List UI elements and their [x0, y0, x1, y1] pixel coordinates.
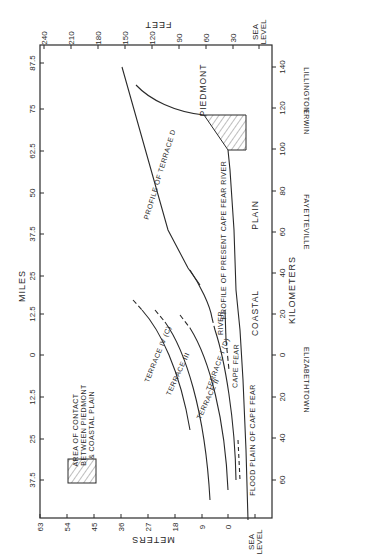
terrace-profile-diagram: 87.5 75 62.5 50 37.5 25 12.5 0 12.5 25 3…	[0, 0, 367, 560]
terrace-i-upper	[190, 270, 212, 318]
legend-line-2: BETWEEN PIEDMONT	[80, 384, 87, 466]
km-tick: 40	[278, 268, 287, 277]
contact-area-hatch	[204, 115, 246, 150]
meters-tick: 18	[171, 522, 180, 531]
cape-fear-label: CAPE FEAR	[231, 344, 240, 388]
km-tick: 60	[278, 227, 287, 236]
present-river-profile-line	[228, 150, 248, 520]
miles-tick: 0	[28, 352, 37, 357]
miles-tick: 37.5	[28, 472, 37, 488]
km-tick: 20	[278, 309, 287, 318]
km-tick: 20	[278, 392, 287, 401]
km-tick: 60	[278, 475, 287, 484]
region-piedmont: PIEDMONT	[198, 64, 208, 117]
miles-tick: 87.5	[28, 55, 37, 71]
meters-tick: 63	[36, 522, 45, 531]
feet-tick: 210	[67, 31, 76, 45]
miles-tick: 37.5	[28, 226, 37, 242]
meters-tick: 45	[90, 522, 99, 531]
miles-tick: 62.5	[28, 143, 37, 159]
terrace-iii-label: TERRACE III	[165, 351, 191, 396]
km-tick: 80	[278, 186, 287, 195]
meters-tick: 0	[224, 524, 233, 529]
region-coastal: COASTAL	[250, 290, 260, 336]
terrace-iii-dashed	[155, 310, 165, 322]
km-tick: 100	[278, 142, 287, 156]
meters-axis-title: METERS	[131, 535, 175, 545]
feet-sea-level-label: LEVEL	[259, 19, 268, 44]
meters-axis: 63 54 45 36 27 18 9 0 SEA LEVEL METERS	[36, 514, 264, 554]
town-elizabethtown: ELIZABETHTOWN	[303, 347, 310, 413]
river-label: RIVER	[217, 311, 224, 335]
miles-tick: 50	[28, 188, 37, 197]
flood-plain-dashed	[238, 440, 240, 480]
legend-line-3: & COASTAL PLAIN	[88, 391, 95, 459]
miles-tick: 25	[28, 434, 37, 443]
town-erwin: ERWIN	[303, 109, 310, 135]
terrace-iv-dashed	[133, 300, 142, 310]
kilometers-axis: 140 120 100 80 60 40 20 0 20 40 60 KILOM…	[272, 60, 297, 485]
present-river-label: PROFILE OF PRESENT CAPE FEAR RIVER	[220, 161, 227, 319]
region-plain: PLAIN	[250, 200, 260, 230]
feet-tick: 150	[121, 31, 130, 45]
meters-tick: 36	[117, 522, 126, 531]
terrace-d-label: PROFILE OF TERRACE D	[143, 128, 177, 220]
miles-tick: 12.5	[28, 389, 37, 405]
feet-tick: 240	[40, 31, 49, 45]
miles-axis-title: MILES	[17, 270, 27, 302]
feet-tick: 30	[229, 33, 238, 42]
km-tick: 40	[278, 433, 287, 442]
feet-tick: 60	[202, 33, 211, 42]
feet-tick: 90	[175, 33, 184, 42]
km-tick: 140	[278, 60, 287, 74]
terrace-ii-dashed	[180, 315, 190, 328]
meters-tick: 27	[144, 522, 153, 531]
feet-tick: 180	[94, 31, 103, 45]
meters-tick: 54	[63, 522, 72, 531]
km-tick: 120	[278, 101, 287, 115]
terrace-i-dashed	[212, 318, 215, 330]
feet-tick: 120	[148, 31, 157, 45]
km-tick: 0	[278, 352, 287, 357]
piedmont-profile-line	[136, 85, 204, 115]
flood-plain-label: FLOOD PLAIN OF CAPE FEAR	[249, 384, 256, 496]
feet-axis-title: FEET	[144, 20, 171, 30]
km-axis-title: KILOMETERS	[287, 256, 297, 324]
miles-tick: 25	[28, 271, 37, 280]
legend-line-1: AREA OF CONTACT	[72, 393, 79, 466]
town-fayetteville: FAYETTEVILLE	[303, 194, 310, 250]
miles-tick: 75	[28, 104, 37, 113]
meters-sea-level-label: LEVEL	[255, 529, 264, 554]
town-lillington: LILLINGTON	[303, 67, 310, 113]
meters-tick: 9	[198, 524, 207, 529]
miles-tick: 12.5	[28, 306, 37, 322]
